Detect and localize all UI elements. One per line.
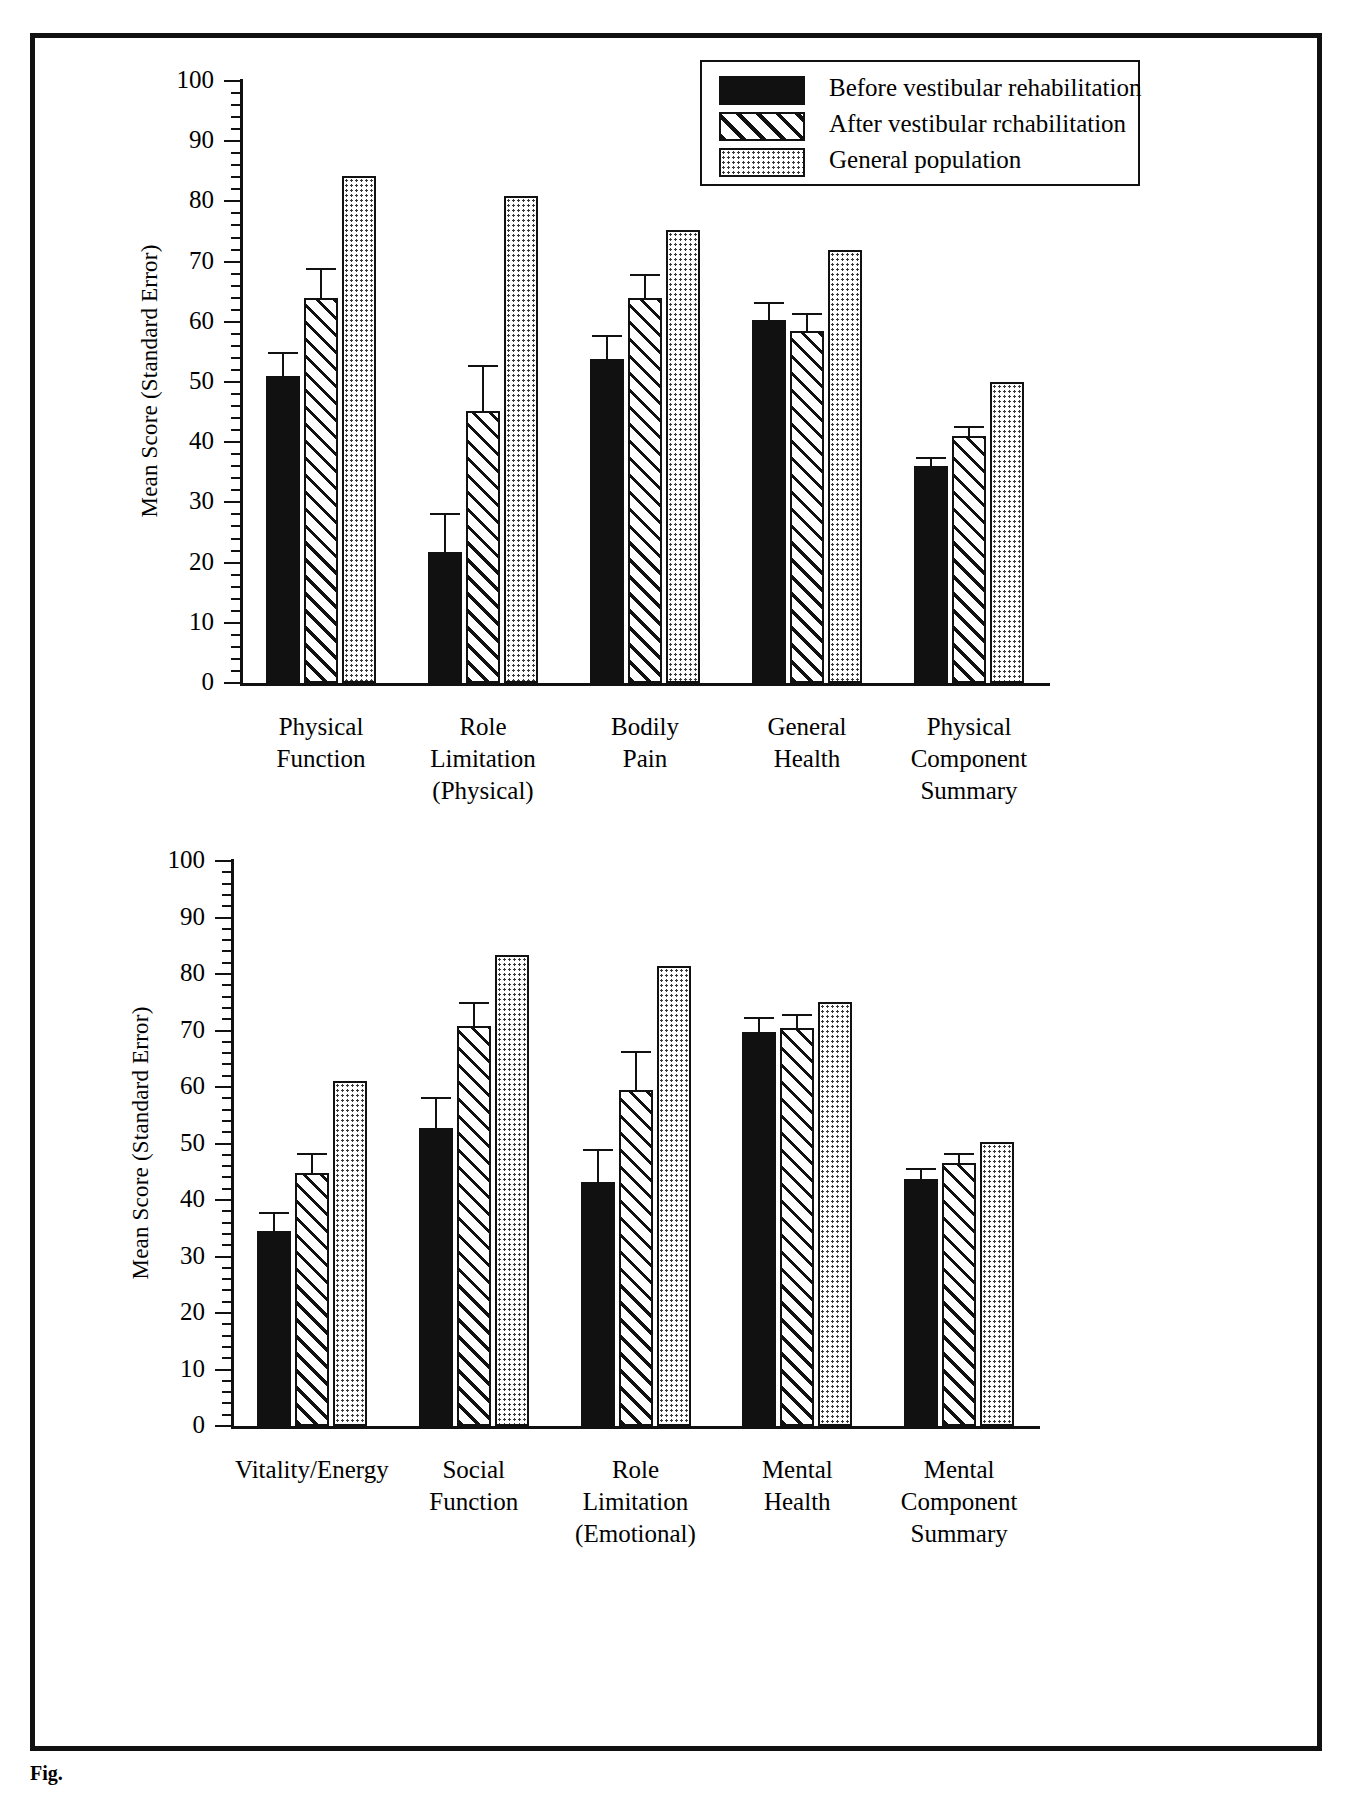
error-bar-line: [320, 268, 322, 298]
y-tick-minor: [231, 224, 241, 226]
y-tick-minor: [222, 1244, 232, 1246]
y-tick-minor: [231, 152, 241, 154]
bar: [790, 331, 824, 683]
y-tick-minor: [231, 212, 241, 214]
y-tick-major: [224, 381, 241, 383]
y-tick-minor: [222, 1380, 232, 1382]
bar: [257, 1231, 291, 1426]
y-tick-minor: [222, 871, 232, 873]
bar: [295, 1173, 329, 1426]
y-tick-minor: [231, 586, 241, 588]
y-tick-minor: [231, 405, 241, 407]
y-tick-minor: [231, 429, 241, 431]
error-bar-cap: [592, 335, 622, 337]
y-tick-minor: [231, 285, 241, 287]
x-axis-category-line: Summary: [844, 1518, 1074, 1550]
y-tick-label: 80: [154, 187, 214, 212]
y-tick-minor: [231, 393, 241, 395]
y-tick-major: [224, 501, 241, 503]
bar: [952, 436, 986, 683]
y-tick-label: 0: [154, 669, 214, 694]
y-tick-minor: [231, 164, 241, 166]
error-bar-cap: [792, 313, 822, 315]
y-tick-label: 80: [145, 960, 205, 985]
y-tick-minor: [231, 357, 241, 359]
y-tick-major: [215, 917, 232, 919]
bar: [904, 1179, 938, 1426]
error-bar-line: [435, 1097, 437, 1128]
y-tick-minor: [222, 1120, 232, 1122]
legend-swatch-solid-black: [719, 76, 805, 105]
bar: [342, 176, 376, 683]
y-tick-major: [215, 1199, 232, 1201]
y-tick-minor: [222, 1335, 232, 1337]
y-tick-minor: [222, 1289, 232, 1291]
y-tick-major: [215, 1425, 232, 1427]
y-tick-major: [224, 261, 241, 263]
bar: [304, 298, 338, 683]
y-tick-minor: [231, 598, 241, 600]
y-tick-major: [215, 1369, 232, 1371]
y-tick-minor: [222, 1267, 232, 1269]
bar: [980, 1142, 1014, 1426]
y-tick-label: 70: [145, 1017, 205, 1042]
y-tick-minor: [231, 646, 241, 648]
error-bar-line: [796, 1014, 798, 1028]
bar: [495, 955, 529, 1426]
y-tick-minor: [222, 1109, 232, 1111]
y-tick-minor: [231, 249, 241, 251]
bar: [428, 552, 462, 683]
error-bar-cap: [621, 1051, 651, 1053]
y-tick-minor: [222, 905, 232, 907]
y-tick-minor: [222, 950, 232, 952]
error-bar-line: [597, 1149, 599, 1182]
error-bar-line: [806, 313, 808, 331]
error-bar-cap: [468, 365, 498, 367]
y-tick-minor: [222, 962, 232, 964]
y-tick-minor: [222, 1323, 232, 1325]
y-tick-label: 60: [154, 308, 214, 333]
y-tick-major: [224, 80, 241, 82]
bar: [657, 966, 691, 1426]
y-tick-minor: [231, 176, 241, 178]
bar: [628, 298, 662, 683]
y-tick-major: [224, 682, 241, 684]
y-tick-label: 60: [145, 1073, 205, 1098]
y-tick-minor: [231, 297, 241, 299]
y-tick-minor: [231, 92, 241, 94]
y-tick-label: 40: [154, 428, 214, 453]
y-tick-minor: [222, 1346, 232, 1348]
chart-panel-mental: 0102030405060708090100Mean Score (Standa…: [35, 786, 1327, 1716]
y-tick-minor: [222, 883, 232, 885]
plot-area-mental: 0102030405060708090100Mean Score (Standa…: [35, 786, 1327, 1716]
figure-caption: Fig.: [30, 1762, 63, 1785]
y-tick-minor: [231, 453, 241, 455]
y-tick-minor: [222, 928, 232, 930]
y-tick-label: 40: [145, 1186, 205, 1211]
error-bar-line: [273, 1212, 275, 1231]
y-tick-minor: [231, 658, 241, 660]
y-tick-label: 30: [145, 1243, 205, 1268]
y-tick-minor: [222, 1052, 232, 1054]
error-bar-line: [758, 1017, 760, 1032]
y-tick-minor: [222, 1063, 232, 1065]
y-tick-minor: [231, 345, 241, 347]
legend-label: Before vestibular rehabilitation: [829, 74, 1141, 102]
error-bar-line: [606, 335, 608, 359]
error-bar-cap: [259, 1212, 289, 1214]
y-tick-minor: [222, 1018, 232, 1020]
y-tick-minor: [231, 489, 241, 491]
y-tick-minor: [231, 309, 241, 311]
error-bar-cap: [906, 1168, 936, 1170]
bar: [742, 1032, 776, 1426]
error-bar-cap: [744, 1017, 774, 1019]
y-tick-major: [224, 200, 241, 202]
y-tick-minor: [222, 1176, 232, 1178]
y-tick-minor: [222, 1188, 232, 1190]
y-tick-minor: [222, 1233, 232, 1235]
x-axis-category-line: Component: [844, 1486, 1074, 1518]
y-tick-minor: [231, 104, 241, 106]
x-axis-line: [231, 1426, 1040, 1429]
y-tick-label: 90: [145, 904, 205, 929]
y-tick-minor: [231, 670, 241, 672]
